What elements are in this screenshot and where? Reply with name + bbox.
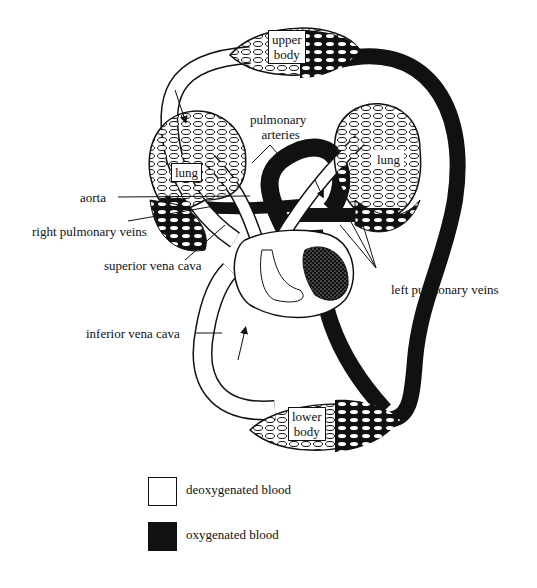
- pulmonary-arteries-label: pulmonary arteries: [250, 112, 306, 142]
- legend-swatch-oxygenated: [148, 522, 177, 551]
- lower-body-label: lower body: [288, 407, 326, 441]
- superior-vena-cava-label: superior vena cava: [104, 258, 201, 273]
- inferior-vena-cava-label: inferior vena cava: [86, 326, 180, 341]
- legend-label-deoxygenated: deoxygenated blood: [186, 482, 291, 497]
- left-pulmonary-veins-label: left pulmonary veins: [391, 282, 499, 297]
- right-pulmonary-veins-label: right pulmonary veins: [32, 224, 147, 239]
- legend-swatch-deoxygenated: [148, 477, 177, 506]
- heart: [234, 230, 353, 317]
- legend-label-oxygenated: oxygenated blood: [186, 527, 279, 542]
- lung-label-right: lung: [373, 150, 404, 169]
- aorta-label: aorta: [80, 190, 106, 205]
- lung-label-left: lung: [171, 163, 202, 182]
- upper-body-label: upper body: [268, 30, 306, 64]
